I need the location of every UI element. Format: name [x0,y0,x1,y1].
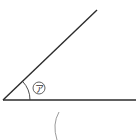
angle-label-text: ア [35,84,44,94]
protractor-arc-fragment [55,112,59,140]
angle-arc [23,81,31,100]
angle-upper-ray [3,10,97,100]
angle-diagram: ア [0,0,139,140]
angle-label: ア [33,82,45,94]
